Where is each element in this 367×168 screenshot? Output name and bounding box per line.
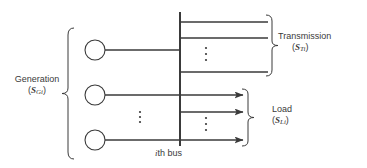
generator-unit-1 [85, 40, 180, 60]
generator-circle-1 [85, 40, 105, 60]
generator-unit-3 [85, 130, 180, 150]
generation-label: Generation (SGi) [8, 74, 66, 98]
bus-label-text: th bus [158, 148, 183, 158]
generator-circle-2 [85, 85, 105, 105]
transmission-ellipsis-icon [205, 47, 207, 61]
generator-unit-2 [85, 85, 180, 105]
bus-label: ith bus [155, 148, 215, 159]
transmission-brace [266, 15, 278, 76]
load-brace [242, 89, 254, 146]
transmission-label: Transmission (STi) [278, 31, 362, 55]
generator-circle-3 [85, 130, 105, 150]
transmission-symbol: (STi) [278, 42, 308, 52]
generation-ellipsis-icon [139, 111, 141, 123]
generation-label-text: Generation [15, 74, 60, 84]
load-ellipsis-icon [205, 117, 207, 131]
generation-symbol: (SGi) [28, 85, 46, 95]
power-system-bus-diagram: Generation (SGi) Transmission (STi) Load… [0, 0, 367, 168]
load-label-text: Load [272, 104, 292, 114]
transmission-label-text: Transmission [278, 31, 331, 41]
generation-symbol-sub: Gi [36, 88, 43, 96]
load-label: Load (SLi) [272, 104, 332, 128]
load-symbol: (SLi) [272, 115, 289, 125]
